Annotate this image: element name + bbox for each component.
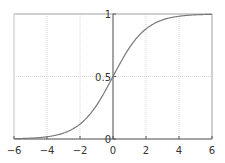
x-tick-label: 0: [110, 145, 116, 156]
x-tick-labels: −6−4−20246: [7, 145, 216, 156]
x-tick-label: 4: [176, 145, 182, 156]
x-tick-label: −2: [73, 145, 88, 156]
x-tick-label: −6: [7, 145, 22, 156]
sigmoid-chart: −6−4−20246 00.51: [0, 0, 225, 163]
y-tick-label: 1: [105, 9, 111, 20]
x-tick-label: −4: [40, 145, 55, 156]
x-tick-label: 6: [209, 145, 215, 156]
y-tick-label: 0.5: [95, 72, 111, 83]
x-tick-label: 2: [143, 145, 149, 156]
y-tick-label: 0: [105, 134, 111, 145]
y-tick-labels: 00.51: [95, 9, 111, 145]
